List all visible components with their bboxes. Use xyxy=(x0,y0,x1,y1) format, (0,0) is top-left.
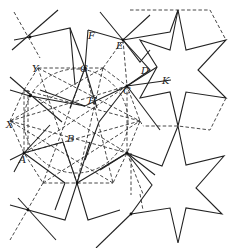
label-b: B xyxy=(66,133,74,144)
label-a: A xyxy=(18,154,26,165)
label-x: X xyxy=(5,119,14,130)
label-e: E xyxy=(115,40,124,51)
label-k: K xyxy=(161,75,170,86)
label-d: D xyxy=(140,65,149,76)
label-g: G xyxy=(80,63,88,74)
geometric-tiling-diagram: F E Y G D K H C X B A xyxy=(0,0,232,248)
label-f: F xyxy=(87,30,96,41)
label-c: C xyxy=(123,85,131,96)
label-h: H xyxy=(87,95,97,106)
center-void xyxy=(62,107,90,135)
